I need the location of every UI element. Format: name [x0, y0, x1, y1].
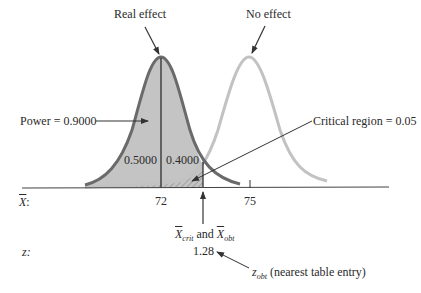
x-axis [22, 187, 389, 188]
tick-label-72: 72 [155, 195, 167, 207]
real-effect-arrow [145, 27, 159, 54]
z-axis-label: z: [22, 246, 31, 258]
zobt-label: zobt (nearest table entry) [252, 266, 366, 281]
right-area-value: 0.4000 [166, 154, 199, 166]
tick-label-75: 75 [244, 195, 256, 207]
power-label: Power = 0.9000 [20, 115, 96, 127]
critical-region-label: Critical region = 0.05 [313, 115, 416, 127]
z-value: 1.28 [193, 245, 214, 257]
xbar-axis-label: X: [19, 196, 30, 208]
no-effect-label: No effect [246, 8, 291, 20]
power-shaded-area [85, 57, 203, 188]
real-effect-label: Real effect [114, 8, 166, 20]
xcrit-xobt-label: Xcrit and Xobt [175, 228, 234, 243]
left-area-value: 0.5000 [124, 154, 157, 166]
zobt-arrow [217, 252, 249, 268]
no-effect-arrow [252, 26, 265, 53]
